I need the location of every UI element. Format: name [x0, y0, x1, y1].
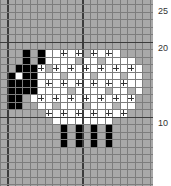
- row-label: 10: [158, 118, 168, 128]
- grid-line: [120, 0, 121, 186]
- thick-grid-line: [7, 0, 9, 186]
- grid-line: [135, 0, 136, 186]
- grid-line: [0, 12, 153, 13]
- thick-grid-line: [0, 42, 153, 44]
- knitting-chart-grid: [0, 0, 153, 186]
- grid-line: [0, 147, 153, 148]
- grid-line: [45, 0, 46, 186]
- grid-line: [150, 0, 151, 186]
- grid-line: [30, 0, 31, 186]
- row-label: 25: [158, 6, 168, 16]
- grid-line: [0, 57, 153, 58]
- thick-grid-line: [0, 117, 153, 119]
- grid-line: [22, 0, 23, 186]
- grid-line: [0, 27, 153, 28]
- grid-line: [0, 72, 153, 73]
- grid-line: [0, 19, 153, 20]
- grid-line: [0, 102, 153, 103]
- grid-line: [0, 154, 153, 155]
- grid-line: [15, 0, 16, 186]
- grid-line: [0, 169, 153, 170]
- grid-line: [0, 109, 153, 110]
- thick-grid-line: [82, 0, 84, 186]
- grid-line: [142, 0, 143, 186]
- grid-line: [127, 0, 128, 186]
- grid-line: [112, 0, 113, 186]
- grid-line: [52, 0, 53, 186]
- grid-line: [67, 0, 68, 186]
- grid-line: [97, 0, 98, 186]
- grid-line: [0, 94, 153, 95]
- grid-line: [0, 132, 153, 133]
- grid-line: [90, 0, 91, 186]
- grid-line: [75, 0, 76, 186]
- grid-line: [0, 177, 153, 178]
- grid-line: [0, 139, 153, 140]
- grid-line: [0, 162, 153, 163]
- grid-line: [0, 34, 153, 35]
- grid-line: [60, 0, 61, 186]
- grid-line: [0, 124, 153, 125]
- grid-line: [0, 87, 153, 88]
- grid-line: [0, 4, 153, 5]
- grid-line: [0, 0, 1, 186]
- grid-line: [37, 0, 38, 186]
- row-label: 20: [158, 43, 168, 53]
- grid-line: [0, 64, 153, 65]
- grid-line: [105, 0, 106, 186]
- grid-line: [0, 79, 153, 80]
- grid-line: [0, 49, 153, 50]
- grid-line: [0, 184, 153, 185]
